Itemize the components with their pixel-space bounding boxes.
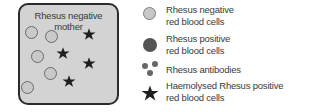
legend-line: Rhesus positive (166, 33, 230, 45)
legend-item-rh-negative: Rhesus negative red blood cells (140, 4, 287, 30)
haemolysed-star-icon (141, 85, 159, 101)
legend-line: Rhesus antibodies (166, 64, 241, 76)
legend-line: Rhesus negative (166, 4, 234, 16)
haemolysed-star-icon (62, 74, 76, 88)
rh-negative-cell-icon (25, 26, 38, 39)
legend-label: Rhesus antibodies (166, 64, 241, 76)
haemolysed-star-icon (82, 27, 96, 41)
rh-negative-cell-icon (31, 50, 44, 63)
rh-negative-cell-icon (44, 67, 57, 80)
legend-item-rh-antibodies: Rhesus antibodies (140, 60, 287, 78)
legend-label: Rhesus negative red blood cells (166, 4, 234, 28)
rh-positive-cell-icon (143, 38, 157, 52)
rh-antibodies-icon (141, 60, 161, 78)
rh-negative-cell-icon (45, 30, 58, 43)
legend-line: red blood cells (166, 16, 234, 28)
legend-label: Haemolysed Rhesus positive red blood cel… (166, 80, 283, 104)
legend-line: red blood cells (166, 92, 283, 104)
legend-label: Rhesus positive red blood cells (166, 33, 230, 57)
legend-line: Haemolysed Rhesus positive (166, 80, 283, 92)
legend-line: red blood cells (166, 45, 230, 57)
legend-item-rh-positive: Rhesus positive red blood cells (140, 36, 287, 62)
rh-negative-cell-icon (143, 7, 156, 20)
title-line-1: Rhesus negative (20, 10, 117, 21)
haemolysed-star-icon (56, 46, 70, 60)
haemolysed-star-icon (82, 56, 96, 70)
legend-item-haemolysed: Haemolysed Rhesus positive red blood cel… (140, 80, 287, 108)
rh-negative-cell-icon (21, 81, 34, 94)
